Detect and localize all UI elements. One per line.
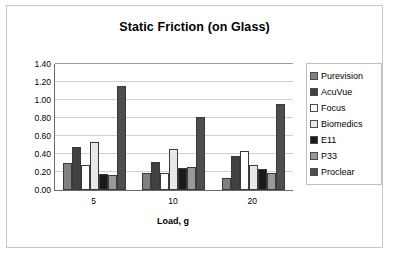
bar[interactable]	[90, 142, 99, 190]
bar[interactable]	[222, 178, 231, 190]
x-axis-tick: 5	[91, 196, 96, 206]
bar-group	[55, 64, 134, 190]
legend-label: Proclear	[321, 168, 355, 177]
legend-label: Biomedics	[321, 120, 363, 129]
y-axis-tick: 0.80	[34, 113, 51, 123]
legend-label: AcuVue	[321, 88, 352, 97]
plot-area	[54, 64, 293, 191]
y-axis-tick: 1.40	[34, 59, 51, 69]
bar[interactable]	[240, 151, 249, 190]
y-axis-tick: 0.00	[34, 185, 51, 195]
bar[interactable]	[178, 168, 187, 191]
legend-swatch-icon	[310, 152, 318, 160]
legend-label: P33	[321, 152, 337, 161]
legend-item[interactable]: Biomedics	[310, 116, 379, 132]
legend-item[interactable]: E11	[310, 132, 379, 148]
legend-swatch-icon	[310, 136, 318, 144]
bar[interactable]	[151, 162, 160, 190]
bar[interactable]	[258, 169, 267, 190]
x-axis-label: Load, g	[54, 216, 292, 226]
chart-legend: PurevisionAcuVueFocusBiomedicsE11P33Proc…	[306, 63, 382, 185]
chart-frame: Static Friction (on Glass) 1.401.201.000…	[6, 5, 383, 248]
legend-item[interactable]: Focus	[310, 100, 379, 116]
legend-swatch-icon	[310, 168, 318, 176]
bar[interactable]	[108, 175, 117, 190]
legend-item[interactable]: Purevision	[310, 68, 379, 84]
bar[interactable]	[231, 156, 240, 190]
legend-label: Focus	[321, 104, 346, 113]
bar[interactable]	[160, 173, 169, 190]
bar[interactable]	[267, 173, 276, 190]
bar-group	[214, 64, 293, 190]
legend-swatch-icon	[310, 88, 318, 96]
y-axis-tick: 0.40	[34, 149, 51, 159]
x-axis-tick: 20	[248, 196, 257, 206]
bar[interactable]	[117, 86, 126, 190]
x-axis-tick: 10	[168, 196, 177, 206]
bar[interactable]	[169, 149, 178, 190]
bars-layer	[55, 64, 293, 190]
bar[interactable]	[276, 104, 285, 190]
chart-title: Static Friction (on Glass)	[7, 20, 382, 34]
legend-swatch-icon	[310, 120, 318, 128]
bar[interactable]	[72, 147, 81, 190]
bar[interactable]	[249, 165, 258, 190]
bar[interactable]	[63, 163, 72, 190]
legend-item[interactable]: AcuVue	[310, 84, 379, 100]
bar[interactable]	[142, 173, 151, 190]
bar-group	[134, 64, 213, 190]
legend-swatch-icon	[310, 104, 318, 112]
legend-label: E11	[321, 136, 336, 145]
legend-item[interactable]: Proclear	[310, 164, 379, 180]
legend-swatch-icon	[310, 72, 318, 80]
y-axis-tick: 0.20	[34, 167, 51, 177]
bar[interactable]	[196, 117, 205, 190]
y-axis-tick: 0.60	[34, 131, 51, 141]
bar[interactable]	[81, 165, 90, 190]
x-axis-tick-labels: 51020	[54, 196, 292, 210]
y-axis-tick: 1.00	[34, 95, 51, 105]
legend-item[interactable]: P33	[310, 148, 379, 164]
y-axis-tick-labels: 1.401.201.000.800.600.400.200.00	[21, 64, 51, 190]
y-axis-tick: 1.20	[34, 77, 51, 87]
bar[interactable]	[99, 174, 108, 190]
legend-label: Purevision	[321, 72, 363, 81]
bar[interactable]	[187, 167, 196, 190]
